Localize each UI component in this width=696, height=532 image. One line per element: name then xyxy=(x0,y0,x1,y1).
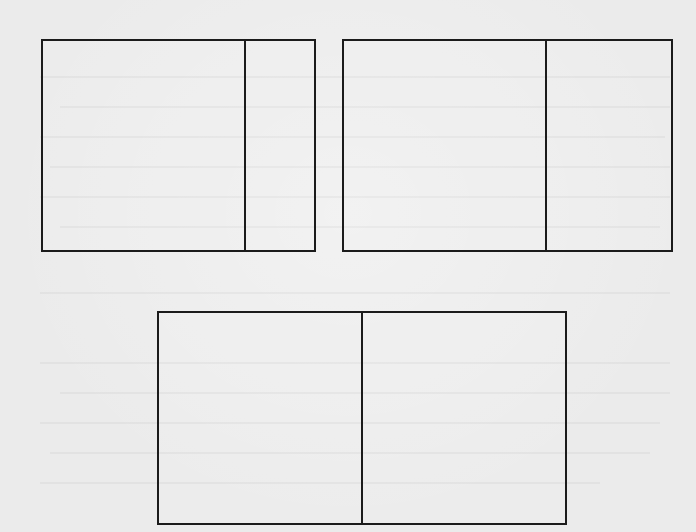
divided-rectangle-bottom-center xyxy=(157,311,567,525)
divided-rectangle-top-left xyxy=(41,39,316,252)
vertical-divider xyxy=(361,313,363,523)
vertical-divider xyxy=(545,41,547,250)
divided-rectangle-top-right xyxy=(342,39,673,252)
vertical-divider xyxy=(244,41,246,250)
